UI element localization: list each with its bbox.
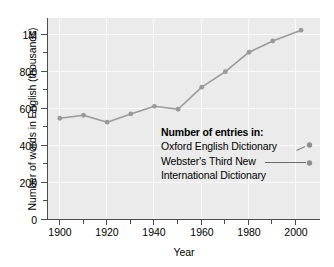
gridline-vertical — [295, 18, 296, 220]
gridline-vertical — [59, 18, 60, 220]
x-tick-minor-1910 — [83, 220, 84, 224]
plot-area — [48, 18, 320, 220]
gridline-horizontal — [48, 71, 320, 72]
x-tick-label: 1920 — [95, 227, 118, 238]
annotation-title: Number of entries in: — [161, 125, 277, 139]
x-tick-minor-1950 — [177, 220, 178, 224]
x-tick-label: 1940 — [142, 227, 165, 238]
x-tick-minor-1930 — [130, 220, 131, 224]
y-tick-1000 — [41, 34, 47, 35]
y-tick-minor-900 — [43, 52, 47, 53]
gridline-horizontal — [48, 34, 320, 35]
x-tick-1960 — [201, 220, 202, 225]
annotation-line-oed: Oxford English Dictionary — [161, 139, 277, 153]
x-tick-label: 1900 — [48, 227, 71, 238]
line-chart: 1M 800 600 400 200 0 1900 1920 1940 1960… — [0, 0, 334, 267]
gridline-vertical — [201, 18, 202, 220]
annotation-line-webster-2: International Dictionary — [161, 168, 277, 182]
y-tick-400 — [41, 145, 47, 146]
x-tick-label: 1960 — [190, 227, 213, 238]
x-tick-2000 — [295, 220, 296, 225]
y-tick-minor-100 — [43, 200, 47, 201]
annotation-line-webster-1: Webster's Third New — [161, 154, 277, 168]
y-tick-800 — [41, 71, 47, 72]
gridline-vertical — [248, 18, 249, 220]
y-tick-minor-500 — [43, 126, 47, 127]
y-tick-minor-700 — [43, 89, 47, 90]
x-tick-1980 — [248, 220, 249, 225]
annotation-block: Number of entries in: Oxford English Dic… — [161, 125, 277, 183]
x-tick-minor-1990 — [271, 220, 272, 224]
gridline-vertical — [153, 18, 154, 220]
y-tick-0 — [41, 219, 47, 220]
gridline-horizontal — [48, 108, 320, 109]
y-tick-600 — [41, 108, 47, 109]
x-tick-label: 2000 — [284, 227, 307, 238]
x-axis-line — [47, 219, 320, 220]
x-tick-1940 — [153, 220, 154, 225]
y-tick-200 — [41, 182, 47, 183]
x-tick-label: 1980 — [237, 227, 260, 238]
y-axis-line — [47, 18, 48, 220]
gridline-vertical — [106, 18, 107, 220]
y-axis-title: Number of words in English (thousands) — [26, 14, 38, 224]
x-axis-title: Year — [48, 246, 320, 258]
x-tick-minor-1970 — [224, 220, 225, 224]
y-tick-minor-300 — [43, 163, 47, 164]
x-tick-1900 — [59, 220, 60, 225]
x-tick-1920 — [106, 220, 107, 225]
